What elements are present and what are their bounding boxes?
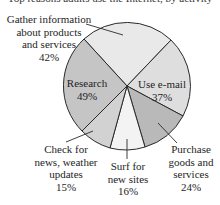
label-check: Check for news, weather updates 15% [34,143,98,193]
label-research: Research 49% [62,77,112,102]
label-purchase: Purchase goods and services 24% [164,143,218,193]
label-gather: Gather information about products and se… [2,13,96,63]
label-surf: Surf for new sites 16% [104,160,152,198]
label-email: Use e-mail 37% [134,78,190,103]
